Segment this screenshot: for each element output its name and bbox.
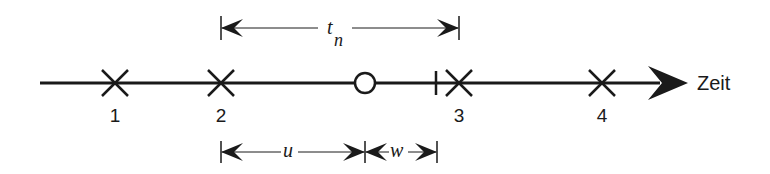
event-label: 3 xyxy=(454,105,465,126)
event-1: 1 xyxy=(102,70,128,126)
timeline-diagram: t n Zeit 1 2 3 4 u w xyxy=(0,0,770,174)
t-n-symbol: t xyxy=(327,16,333,38)
axis-label: Zeit xyxy=(697,72,731,94)
w-symbol: w xyxy=(390,139,404,161)
event-2: 2 xyxy=(208,70,234,126)
observation-circle-icon xyxy=(355,73,375,93)
event-3: 3 xyxy=(446,70,472,126)
time-axis: Zeit xyxy=(40,66,731,100)
interval-u: u xyxy=(221,139,365,163)
interval-w: w xyxy=(366,139,437,163)
event-4: 4 xyxy=(589,70,615,126)
interval-t-n: t n xyxy=(221,16,459,50)
event-label: 2 xyxy=(216,105,227,126)
event-label: 4 xyxy=(597,105,608,126)
u-symbol: u xyxy=(283,139,293,161)
event-label: 1 xyxy=(110,105,121,126)
t-n-subscript: n xyxy=(334,30,343,50)
